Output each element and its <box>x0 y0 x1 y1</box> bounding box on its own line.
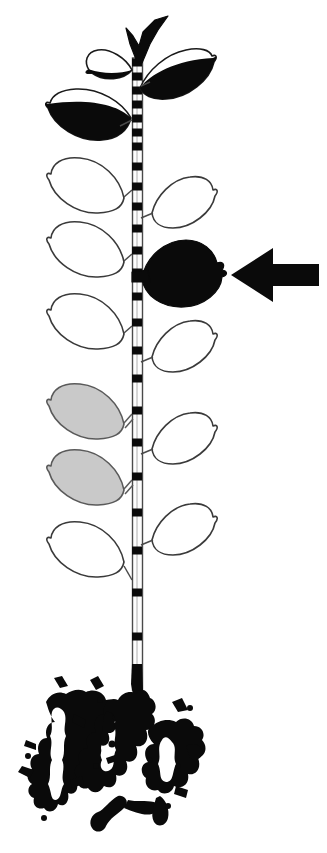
stem-node <box>132 473 142 481</box>
stem-node <box>132 347 142 355</box>
root-left-dot-1 <box>25 753 31 759</box>
stem-node <box>132 101 142 109</box>
stem-node <box>132 115 142 123</box>
root-center-dot-1 <box>109 741 116 748</box>
plant-figure <box>0 0 327 853</box>
stem-node <box>132 633 142 641</box>
stem-node-group <box>132 59 142 641</box>
stem-node <box>132 375 142 383</box>
stem-node <box>132 439 142 447</box>
stem-node <box>132 163 142 171</box>
main-stem <box>131 58 143 702</box>
plant-diagram-canvas <box>0 0 327 853</box>
root-right-dot-4 <box>148 758 153 763</box>
stem-node <box>132 143 142 151</box>
stem-node <box>132 319 142 327</box>
stem-node <box>132 407 142 415</box>
stem-node <box>132 183 142 191</box>
stem-node <box>132 509 142 517</box>
stem-node <box>132 225 142 233</box>
root-right-dot-3 <box>176 764 181 769</box>
root-left-dot-2 <box>41 815 47 821</box>
stem-node <box>132 203 142 211</box>
stem-node <box>132 589 142 597</box>
root-left-dot-3 <box>97 697 103 703</box>
stem-node <box>132 293 142 301</box>
leaf-black-marked-petiole <box>132 270 150 282</box>
stem-node <box>132 247 142 255</box>
stem-node <box>132 129 142 137</box>
root-right-dot-2 <box>165 803 171 809</box>
root-center-dot-2 <box>93 763 99 769</box>
root-right-dot-1 <box>187 705 193 711</box>
stem-node <box>132 73 142 81</box>
stem-node <box>132 547 142 555</box>
